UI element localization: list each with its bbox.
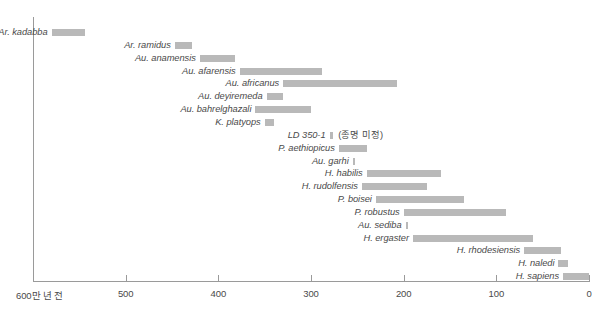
range-bar[interactable]	[330, 132, 334, 139]
species-label: H. rudolfensis	[302, 180, 358, 193]
hominin-timeline-chart: 600만 년 전5004003002001000 Ar. kadabbaAr. …	[0, 0, 614, 320]
species-label: P. robustus	[354, 206, 399, 219]
timeline-row[interactable]: P. robustus	[0, 206, 614, 219]
timeline-row[interactable]: LD 350-1(종명 미정)	[0, 129, 614, 142]
x-axis-tick-label: 100	[489, 288, 505, 299]
species-label: H. habilis	[325, 167, 363, 180]
species-label: Ar. ramidus	[124, 39, 171, 52]
species-label: H. naledi	[518, 257, 554, 270]
species-label: H. ergaster	[364, 232, 409, 245]
species-label: Au. africanus	[226, 77, 280, 90]
range-bar[interactable]	[255, 106, 311, 113]
species-label: LD 350-1	[288, 129, 326, 142]
species-label: H. rhodesiensis	[457, 244, 520, 257]
range-bar[interactable]	[283, 80, 397, 87]
species-label: K. platyops	[215, 116, 260, 129]
species-note: (종명 미정)	[338, 129, 383, 142]
range-bar[interactable]	[367, 170, 441, 177]
species-label: Ar. kadabba	[0, 26, 48, 39]
range-bar[interactable]	[563, 273, 589, 280]
range-bar[interactable]	[267, 93, 284, 100]
range-bar[interactable]	[175, 42, 193, 49]
species-label: P. aethiopicus	[278, 142, 335, 155]
timeline-row[interactable]: H. habilis	[0, 167, 614, 180]
range-bar[interactable]	[406, 222, 408, 229]
timeline-row[interactable]: H. ergaster	[0, 232, 614, 245]
timeline-row[interactable]: H. rudolfensis	[0, 180, 614, 193]
species-label: P. boisei	[338, 193, 372, 206]
timeline-row[interactable]: P. aethiopicus	[0, 142, 614, 155]
range-bar[interactable]	[265, 119, 274, 126]
species-label: Au. bahrelghazali	[180, 103, 251, 116]
species-label: Au. afarensis	[182, 65, 236, 78]
range-bar[interactable]	[558, 260, 567, 267]
species-label: Au. deyiremeda	[198, 90, 262, 103]
range-bar[interactable]	[362, 183, 427, 190]
timeline-row[interactable]: K. platyops	[0, 116, 614, 129]
range-bar[interactable]	[353, 158, 356, 165]
range-bar[interactable]	[376, 196, 464, 203]
x-axis-tick-label: 0	[586, 288, 591, 299]
timeline-row[interactable]: H. naledi	[0, 257, 614, 270]
species-label: Au. sediba	[358, 219, 401, 232]
timeline-row[interactable]: H. sapiens	[0, 270, 614, 283]
timeline-row[interactable]: Au. bahrelghazali	[0, 103, 614, 116]
species-label: Au. anamensis	[135, 52, 196, 65]
x-axis-tick-label: 500	[118, 288, 134, 299]
timeline-row[interactable]: Ar. kadabba	[0, 26, 614, 39]
species-label: H. sapiens	[516, 270, 559, 283]
range-bar[interactable]	[200, 55, 235, 62]
timeline-row[interactable]: Ar. ramidus	[0, 39, 614, 52]
range-bar[interactable]	[240, 68, 322, 75]
x-axis-tick-label: 600만 년 전	[16, 288, 63, 302]
x-axis-tick-label: 400	[211, 288, 227, 299]
range-bar[interactable]	[413, 235, 533, 242]
range-bar[interactable]	[52, 29, 85, 36]
species-label: Au. garhi	[312, 155, 349, 168]
range-bar[interactable]	[524, 247, 561, 254]
range-bar[interactable]	[339, 145, 367, 152]
timeline-row[interactable]: Au. afarensis	[0, 65, 614, 78]
timeline-row[interactable]: H. rhodesiensis	[0, 244, 614, 257]
range-bar[interactable]	[404, 209, 506, 216]
timeline-row[interactable]: Au. africanus	[0, 77, 614, 90]
timeline-row[interactable]: Au. anamensis	[0, 52, 614, 65]
timeline-row[interactable]: Au. sediba	[0, 219, 614, 232]
timeline-row[interactable]: Au. garhi	[0, 155, 614, 168]
x-axis-tick-label: 200	[396, 288, 412, 299]
timeline-row[interactable]: P. boisei	[0, 193, 614, 206]
timeline-row[interactable]: Au. deyiremeda	[0, 90, 614, 103]
x-axis-tick-label: 300	[303, 288, 319, 299]
